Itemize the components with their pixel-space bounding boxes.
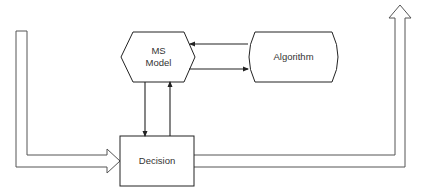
ms-model-label: MS Model (133, 45, 184, 69)
diagram-canvas (0, 0, 428, 192)
ms-model-label-line1: MS (133, 45, 184, 57)
ms-model-label-line2: Model (133, 57, 184, 69)
input-flow-arrow (16, 31, 120, 173)
output-flow-arrow (194, 5, 411, 167)
algorithm-label: Algorithm (255, 51, 332, 63)
decision-label: Decision (120, 155, 194, 167)
